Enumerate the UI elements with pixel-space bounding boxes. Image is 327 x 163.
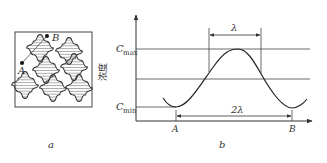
y-axis-title: 浓度 (97, 63, 108, 81)
cmin-label-sub: min (123, 107, 137, 115)
point-b-label: B (51, 32, 59, 43)
point-b-marker (45, 34, 49, 38)
panel-b-concentration-profile: λ 2λ C max C min 浓度 A B b (97, 15, 312, 150)
panel-b-caption: b (219, 139, 225, 150)
figure: A B a λ 2λ C max C min 浓度 A B b (0, 0, 327, 163)
lambda-label: λ (230, 22, 237, 33)
panel-a-caption: a (48, 139, 54, 150)
x-point-a-label: A (171, 124, 179, 134)
cmax-label-sub: max (123, 49, 138, 57)
point-a-label: A (17, 65, 25, 76)
panel-a-microstructure: A B a (11, 32, 94, 150)
x-point-b-label: B (288, 124, 296, 134)
two-lambda-label: 2λ (230, 104, 244, 115)
concentration-curve (163, 49, 307, 108)
